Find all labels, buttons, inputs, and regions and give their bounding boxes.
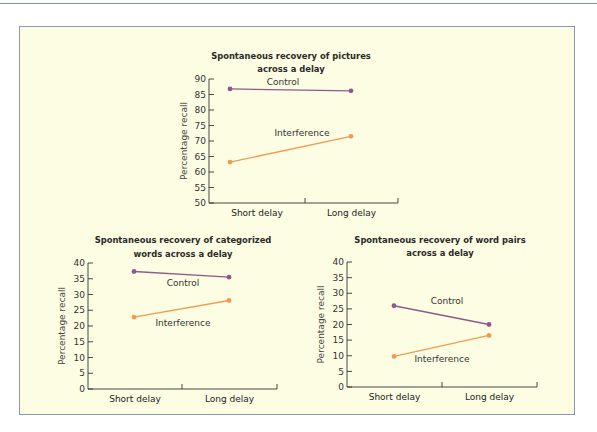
y-tick-label: 85 bbox=[195, 90, 206, 100]
chart-pictures: Spontaneous recovery of picturesacross a… bbox=[179, 51, 398, 218]
y-tick-label: 30 bbox=[74, 290, 86, 300]
y-axis-label: Percentage recall bbox=[57, 287, 67, 365]
x-category-label: Short delay bbox=[369, 392, 421, 402]
y-tick-label: 5 bbox=[79, 368, 85, 378]
data-point bbox=[132, 269, 137, 274]
y-tick-label: 65 bbox=[195, 152, 206, 162]
data-point bbox=[349, 134, 354, 139]
y-tick-label: 70 bbox=[195, 136, 207, 146]
series-label-interference: Interference bbox=[155, 318, 211, 328]
chart-title: Spontaneous recovery of word pairsacross… bbox=[354, 235, 525, 258]
y-tick-label: 25 bbox=[333, 304, 344, 314]
x-category-label: Long delay bbox=[205, 394, 255, 404]
y-tick-label: 90 bbox=[195, 74, 207, 84]
series-line-control bbox=[230, 89, 351, 91]
data-point bbox=[392, 303, 397, 308]
y-tick-label: 25 bbox=[74, 305, 85, 315]
x-category-label: Short delay bbox=[231, 208, 283, 218]
chart-title: Spontaneous recovery of categorizedwords… bbox=[95, 235, 272, 259]
y-tick-label: 50 bbox=[195, 198, 207, 208]
data-point bbox=[228, 87, 233, 92]
series-line-control bbox=[394, 306, 489, 325]
series-label-control: Control bbox=[431, 296, 464, 306]
axes bbox=[347, 262, 537, 387]
data-point bbox=[132, 315, 137, 320]
y-tick-label: 15 bbox=[74, 337, 85, 347]
chart-categorized-words: Spontaneous recovery of categorizedwords… bbox=[57, 235, 277, 404]
y-tick-label: 35 bbox=[333, 273, 344, 283]
figure-charts: Spontaneous recovery of picturesacross a… bbox=[0, 0, 597, 432]
chart-title: Spontaneous recovery of picturesacross a… bbox=[211, 51, 371, 74]
series-label-control: Control bbox=[167, 278, 200, 288]
y-tick-label: 30 bbox=[333, 288, 345, 298]
y-tick-label: 35 bbox=[74, 274, 85, 284]
x-category-label: Short delay bbox=[109, 394, 161, 404]
y-axis-label: Percentage recall bbox=[316, 286, 326, 364]
data-point bbox=[228, 160, 233, 165]
y-tick-label: 40 bbox=[74, 258, 86, 268]
data-point bbox=[349, 88, 354, 93]
data-point bbox=[392, 354, 397, 359]
data-point bbox=[487, 322, 492, 327]
y-tick-label: 5 bbox=[338, 367, 344, 377]
y-tick-label: 10 bbox=[74, 353, 86, 363]
y-tick-label: 55 bbox=[195, 183, 206, 193]
data-point bbox=[227, 275, 232, 280]
y-tick-label: 60 bbox=[195, 167, 207, 177]
series-label-interference: Interference bbox=[274, 128, 330, 138]
series-line-control bbox=[134, 272, 229, 278]
data-point bbox=[227, 298, 232, 303]
series-label-interference: Interference bbox=[414, 354, 470, 364]
y-tick-label: 0 bbox=[79, 384, 85, 394]
y-tick-label: 75 bbox=[195, 121, 206, 131]
x-category-label: Long delay bbox=[465, 392, 515, 402]
y-tick-label: 80 bbox=[195, 105, 207, 115]
chart-word-pairs: Spontaneous recovery of word pairsacross… bbox=[316, 235, 537, 402]
axes bbox=[209, 79, 398, 203]
series-line-interference bbox=[230, 136, 351, 162]
y-tick-label: 20 bbox=[74, 321, 86, 331]
series-line-interference bbox=[134, 300, 229, 317]
y-tick-label: 20 bbox=[333, 320, 345, 330]
y-tick-label: 10 bbox=[333, 351, 345, 361]
series-label-control: Control bbox=[267, 77, 300, 87]
y-axis-label: Percentage recall bbox=[179, 102, 189, 180]
y-tick-label: 0 bbox=[338, 382, 344, 392]
x-category-label: Long delay bbox=[327, 208, 377, 218]
y-tick-label: 15 bbox=[333, 335, 344, 345]
data-point bbox=[487, 333, 492, 338]
y-tick-label: 40 bbox=[333, 257, 345, 267]
